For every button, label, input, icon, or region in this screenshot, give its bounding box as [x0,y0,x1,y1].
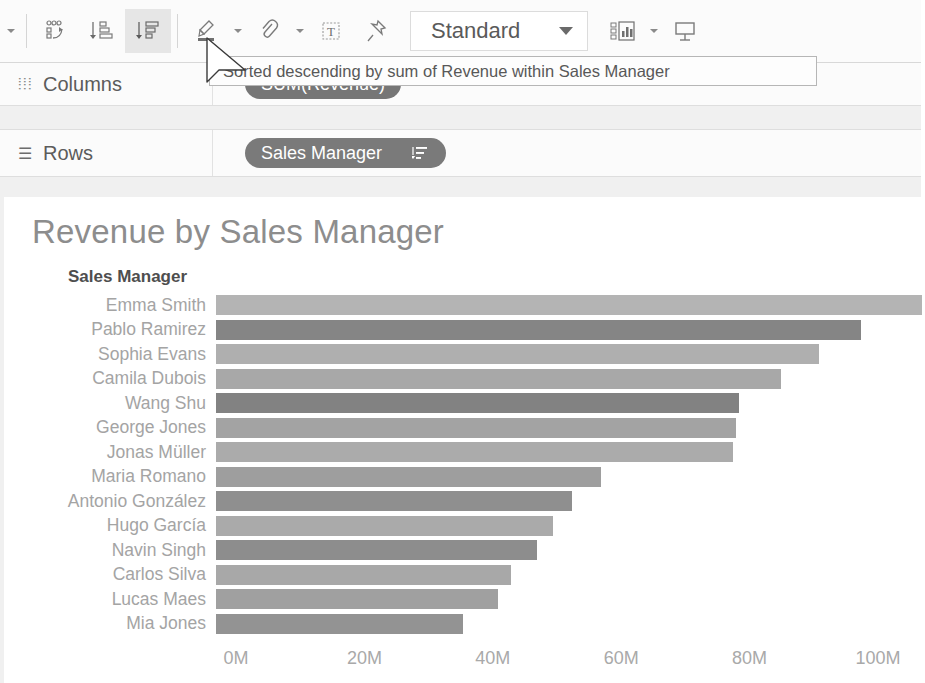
sort-tooltip-text: Sorted descending by sum of Revenue with… [223,62,670,81]
bar[interactable] [216,565,511,585]
svg-text:T: T [327,24,335,39]
bar[interactable] [216,369,781,389]
bar-track [216,440,925,465]
presentation-mode-button[interactable] [662,9,708,53]
undo-redo-caret[interactable] [2,11,20,51]
x-axis-tick: 80M [732,648,767,669]
swap-rows-columns-button[interactable] [33,9,79,53]
bar-row-label: Hugo García [4,515,216,536]
x-axis-tick: 100M [855,648,900,669]
bar-row[interactable]: Carlos Silva [4,563,925,588]
group-members-caret[interactable] [292,9,308,53]
bar-row[interactable]: Jonas Müller [4,440,925,465]
bar-row-label: Pablo Ramirez [4,319,216,340]
fix-axes-button[interactable] [354,9,400,53]
text-label-icon: T [318,18,344,44]
bar[interactable] [216,467,601,487]
bar-row[interactable]: Sophia Evans [4,342,925,367]
bar-track [216,318,925,343]
group-members-button[interactable] [246,9,292,53]
bar-row-label: Navin Singh [4,540,216,561]
x-axis-tick: 40M [475,648,510,669]
columns-shelf-label: ⦙⦙⦙ Columns [0,73,212,96]
rows-list-icon: ☰ [18,144,33,163]
columns-label-text: Columns [43,73,122,96]
sort-descending-button[interactable] [125,9,171,53]
bar-row-label: Antonio González [4,491,216,512]
highlighter-caret[interactable] [230,9,246,53]
fit-selector[interactable]: Standard [410,11,588,51]
bar-row[interactable]: Camila Dubois [4,367,925,392]
bar-row[interactable]: Pablo Ramirez [4,318,925,343]
x-axis-tick: 0M [223,648,248,669]
bar-row[interactable]: Wang Shu [4,391,925,416]
bar-row-label: Carlos Silva [4,564,216,585]
bar-row-label: Camila Dubois [4,368,216,389]
page-title: Revenue by Sales Manager [32,213,444,251]
bar[interactable] [216,442,733,462]
bar-row[interactable]: Mia Jones [4,612,925,637]
bar-row-label: Lucas Maes [4,589,216,610]
bar[interactable] [216,589,498,609]
rows-label-text: Rows [43,142,93,165]
caret-down-icon [559,27,573,35]
caret-down-icon [7,29,15,33]
bar-row[interactable]: Maria Romano [4,465,925,490]
paperclip-group-icon [257,17,281,45]
pushpin-icon [364,17,390,45]
bar-track [216,342,925,367]
show-me-chart-icon [608,17,638,45]
pill-sales-manager[interactable]: Sales Manager [245,138,446,168]
bar[interactable] [216,344,819,364]
pill-label: Sales Manager [261,143,382,164]
bar[interactable] [216,320,861,340]
rows-shelf-label: ☰ Rows [0,142,212,165]
toolbar-divider [26,14,27,48]
toolbar: T Standard [0,0,921,63]
x-axis-tick: 20M [347,648,382,669]
bar-track [216,514,925,539]
bar[interactable] [216,393,739,413]
bar-track [216,367,925,392]
viz-pane: Revenue by Sales Manager Sales Manager E… [0,197,921,683]
shelf-gap [0,106,921,129]
fit-selector-value: Standard [431,18,520,44]
sort-descending-icon [134,18,162,44]
highlighter-button[interactable] [184,9,230,53]
rows-shelf[interactable]: ☰ Rows Sales Manager [0,129,921,177]
x-axis: 0M20M40M60M80M100M [4,644,925,682]
bar[interactable] [216,491,572,511]
bar-row-label: Wang Shu [4,393,216,414]
bar-row[interactable]: George Jones [4,416,925,441]
bar-row-label: Mia Jones [4,613,216,634]
bar-track [216,489,925,514]
sort-descending-icon[interactable] [412,146,430,160]
bar-track [216,612,925,637]
bar[interactable] [216,614,463,634]
swap-rows-columns-icon [43,18,69,44]
shelf-divider [212,130,213,176]
bar-row-label: Maria Romano [4,466,216,487]
bar-row-label: Emma Smith [4,295,216,316]
highlighter-icon [194,17,220,45]
show-me-button[interactable] [600,9,646,53]
shelf-gap-lower [0,177,921,197]
show-me-caret[interactable] [646,9,662,53]
bar-track [216,538,925,563]
bar-row-label: Jonas Müller [4,442,216,463]
bar-row[interactable]: Emma Smith [4,293,925,318]
bar-row[interactable]: Antonio González [4,489,925,514]
sort-ascending-button[interactable] [79,9,125,53]
bar[interactable] [216,516,553,536]
bar[interactable] [216,540,537,560]
bar-row[interactable]: Navin Singh [4,538,925,563]
bar-row-label: Sophia Evans [4,344,216,365]
show-mark-labels-button[interactable]: T [308,9,354,53]
toolbar-divider [177,14,178,48]
bar-row[interactable]: Lucas Maes [4,587,925,612]
bar-row[interactable]: Hugo García [4,514,925,539]
bar[interactable] [216,295,922,315]
sort-tooltip: Sorted descending by sum of Revenue with… [209,56,817,86]
bar-track [216,587,925,612]
bar[interactable] [216,418,736,438]
